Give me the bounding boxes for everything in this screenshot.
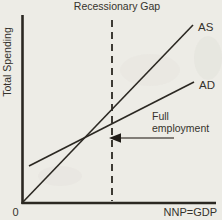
chart-title: Recessionary Gap bbox=[74, 0, 161, 12]
full-employment-label-line1: Full bbox=[152, 110, 169, 122]
scan-noise bbox=[38, 166, 82, 186]
recessionary-gap-figure: Recessionary Gap AS AD Total Spending Fu… bbox=[0, 0, 222, 220]
y-axis-label: Total Spending bbox=[1, 27, 13, 97]
scan-noise bbox=[194, 36, 222, 80]
diagram-canvas: Recessionary Gap AS AD Total Spending Fu… bbox=[0, 0, 222, 220]
x-axis-label: NNP=GDP bbox=[164, 206, 218, 218]
full-employment-label-line2: employment bbox=[152, 122, 209, 134]
origin-label: 0 bbox=[12, 206, 18, 218]
as-curve-label: AS bbox=[198, 21, 214, 33]
ad-curve-label: AD bbox=[199, 79, 215, 91]
